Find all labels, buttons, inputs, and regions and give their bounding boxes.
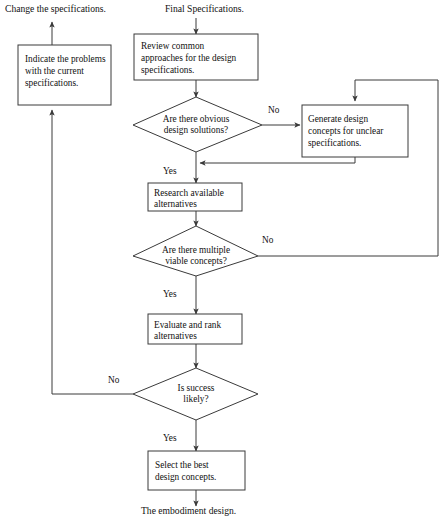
node-select-best-design-concepts[interactable]: Select the best design concepts. (148, 451, 245, 490)
label-change-the-specifications: Change the specifications. (5, 3, 106, 14)
node-research-alternatives-line-2: alternatives (154, 199, 197, 209)
node-success-likely-line-2: likely? (183, 394, 208, 404)
flowchart-canvas: Indicate the problems with the current s… (0, 0, 446, 518)
node-select-best-line-1: Select the best (155, 460, 209, 470)
node-generate-concepts-line-1: Generate design (308, 114, 368, 124)
node-review-common-line-2: approaches for the design (141, 53, 237, 63)
node-indicate-problems-line-2: with the current (25, 66, 84, 76)
edge-label-multiple-yes: Yes (163, 289, 177, 299)
node-review-common-approaches[interactable]: Review common approaches for the design … (134, 34, 258, 80)
edge-label-multiple-no: No (262, 235, 274, 245)
node-multiple-concepts-line-1: Are there multiple (162, 245, 230, 255)
label-final-specifications: Final Specifications. (165, 3, 244, 14)
node-select-best-line-2: design concepts. (155, 472, 216, 482)
edge-label-obvious-yes: Yes (163, 166, 177, 176)
node-review-common-line-3: specifications. (141, 65, 194, 75)
node-indicate-problems[interactable]: Indicate the problems with the current s… (18, 45, 111, 105)
node-multiple-concepts-line-2: viable concepts? (165, 256, 227, 266)
node-indicate-problems-line-3: specifications. (25, 78, 78, 88)
node-research-alternatives-line-1: Research available (154, 188, 224, 198)
label-the-embodiment-design: The embodiment design. (141, 505, 236, 516)
node-research-available-alternatives[interactable]: Research available alternatives (148, 183, 242, 211)
edge-label-obvious-no: No (268, 105, 280, 115)
node-evaluate-rank-line-2: alternatives (154, 331, 197, 341)
flowchart-svg: Indicate the problems with the current s… (0, 0, 446, 518)
node-indicate-problems-line-1: Indicate the problems (25, 54, 106, 64)
edge-label-success-yes: Yes (163, 433, 177, 443)
node-is-success-likely[interactable]: Is success likely? (133, 368, 258, 420)
node-review-common-line-1: Review common (141, 41, 205, 51)
node-success-likely-line-1: Is success (178, 383, 215, 393)
node-multiple-viable-concepts[interactable]: Are there multiple viable concepts? (133, 226, 258, 276)
node-obvious-design-solutions[interactable]: Are there obvious design solutions? (133, 97, 262, 152)
edge-label-success-no: No (108, 375, 120, 385)
node-evaluate-and-rank[interactable]: Evaluate and rank alternatives (148, 314, 242, 344)
node-generate-concepts-line-3: specifications. (308, 138, 361, 148)
node-evaluate-rank-line-1: Evaluate and rank (154, 320, 221, 330)
connector-success-no-to-indicate (52, 110, 133, 394)
node-generate-concepts-line-2: concepts for unclear (308, 126, 384, 136)
node-obvious-solutions-line-2: design solutions? (164, 125, 228, 135)
connector-generate-return-to-trunk (200, 157, 355, 163)
node-obvious-solutions-line-1: Are there obvious (163, 114, 230, 124)
node-generate-design-concepts[interactable]: Generate design concepts for unclear spe… (302, 105, 408, 157)
